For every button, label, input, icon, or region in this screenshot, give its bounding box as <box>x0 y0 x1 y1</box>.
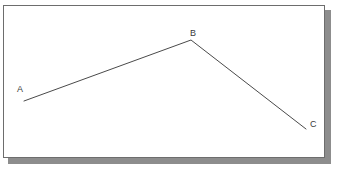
vertex-label-b: B <box>190 29 196 38</box>
diagram-panel <box>3 5 325 158</box>
vertex-label-c: C <box>310 120 317 129</box>
vertex-label-a: A <box>17 85 23 94</box>
figure-root: A B C <box>0 0 339 171</box>
